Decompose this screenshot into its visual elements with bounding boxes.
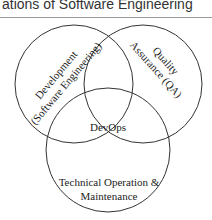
- venn-diagram: Development (Software Engineering) Quali…: [0, 0, 212, 220]
- label-devops: DevOps: [90, 121, 126, 133]
- label-operations-line1: Technical Operation &: [59, 176, 160, 188]
- label-operations-line2: Maintenance: [81, 190, 138, 202]
